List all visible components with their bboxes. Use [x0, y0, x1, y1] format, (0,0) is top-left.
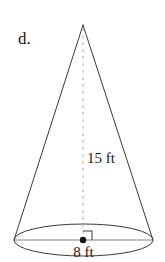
cone-diagram: d. 15 ft 8 ft	[0, 0, 165, 262]
base-center-dot-icon	[80, 237, 86, 243]
height-dimension-label: 15 ft	[87, 150, 116, 166]
part-label: d.	[18, 29, 31, 48]
cone-figure-container: d. 15 ft 8 ft	[0, 0, 165, 262]
diameter-dimension-label: 8 ft	[73, 244, 94, 260]
